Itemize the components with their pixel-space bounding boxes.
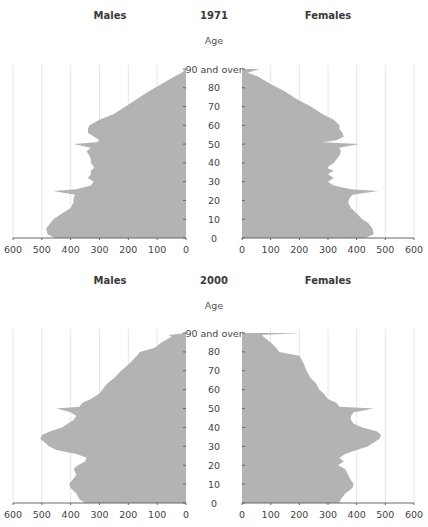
female-x-tick-label: 300 — [319, 244, 337, 255]
age-tick-label: 60 — [208, 384, 220, 395]
male-x-tick-label: 500 — [33, 244, 51, 255]
female-x-tick-label: 400 — [348, 244, 366, 255]
female-x-tick-label: 400 — [348, 509, 366, 520]
age-tick-label: 20 — [208, 460, 220, 471]
female-x-tick-label: 600 — [405, 244, 423, 255]
male-x-tick-label: 600 — [4, 509, 22, 520]
female-x-tick-label: 300 — [319, 509, 337, 520]
age-tick-label: 70 — [208, 101, 220, 112]
female-x-tick-label: 100 — [262, 244, 280, 255]
age-tick-label: 30 — [208, 441, 220, 452]
male-x-tick-label: 200 — [119, 244, 137, 255]
age-tick-label: 10 — [208, 479, 220, 490]
age-tick-label: 20 — [208, 195, 220, 206]
male-x-tick-label: 300 — [90, 244, 108, 255]
females-area — [242, 333, 381, 503]
male-x-tick-label: 0 — [183, 244, 189, 255]
male-x-tick-label: 0 — [183, 509, 189, 520]
age-tick-label: 0 — [211, 233, 217, 244]
age-tick-label: 90 and over — [185, 64, 242, 75]
age-tick-label: 50 — [208, 139, 220, 150]
males-area — [46, 69, 186, 238]
male-x-tick-label: 500 — [33, 509, 51, 520]
female-x-tick-label: 500 — [376, 509, 394, 520]
age-tick-label: 60 — [208, 120, 220, 131]
male-x-tick-label: 400 — [62, 244, 80, 255]
male-x-tick-label: 100 — [148, 509, 166, 520]
age-tick-label: 40 — [208, 422, 220, 433]
male-x-tick-label: 200 — [119, 509, 137, 520]
female-x-tick-label: 0 — [239, 244, 245, 255]
male-x-tick-label: 600 — [4, 244, 22, 255]
male-x-tick-label: 400 — [62, 509, 80, 520]
age-tick-label: 80 — [208, 346, 220, 357]
male-x-tick-label: 300 — [90, 509, 108, 520]
male-x-tick-label: 100 — [148, 244, 166, 255]
age-tick-label: 70 — [208, 365, 220, 376]
female-x-tick-label: 200 — [290, 244, 308, 255]
female-x-tick-label: 200 — [290, 509, 308, 520]
population-pyramids: 0010010020020030030040040050050060060001… — [0, 0, 428, 527]
age-tick-label: 10 — [208, 214, 220, 225]
age-tick-label: 40 — [208, 157, 220, 168]
males-area — [40, 333, 186, 503]
age-tick-label: 90 and over — [185, 328, 242, 339]
female-x-tick-label: 500 — [376, 244, 394, 255]
females-area — [242, 69, 378, 238]
age-tick-label: 0 — [211, 498, 217, 509]
age-tick-label: 50 — [208, 403, 220, 414]
female-x-tick-label: 600 — [405, 509, 423, 520]
female-x-tick-label: 100 — [262, 509, 280, 520]
age-tick-label: 30 — [208, 176, 220, 187]
age-tick-label: 80 — [208, 82, 220, 93]
female-x-tick-label: 0 — [239, 509, 245, 520]
